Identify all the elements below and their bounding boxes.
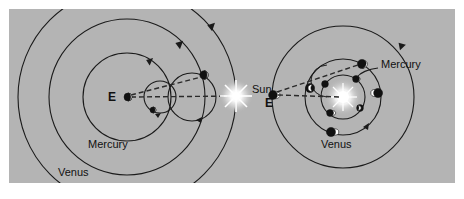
- right-planet-venus-c: [326, 127, 338, 136]
- right-earth-orbit-arrow: [395, 40, 406, 51]
- left-earth-marker: [124, 93, 132, 101]
- right-mercury-label: Mercury: [381, 58, 421, 70]
- left-mercury-epicycle-arrow: [155, 113, 161, 118]
- left-mercury-label: Mercury: [88, 138, 128, 150]
- right-planet-mercury-a: [353, 76, 361, 83]
- right-earth-label: E: [265, 96, 273, 110]
- right-planet-venus-d: [371, 88, 383, 97]
- sun-core: [232, 92, 240, 100]
- left-planet-venus: [200, 71, 208, 79]
- diagram-svg: E Mercury Venus Sun: [0, 0, 464, 199]
- sun-label: Sun: [252, 83, 272, 95]
- right-planet-venus-b: [305, 83, 314, 92]
- figure-container: E Mercury Venus Sun: [0, 0, 464, 199]
- right-heliocentric-diagram: E Mercury Venus: [265, 26, 421, 168]
- sun-group: Sun: [219, 79, 272, 113]
- left-planet-mercury: [150, 107, 156, 113]
- left-geocentric-diagram: E Mercury Venus: [18, 0, 238, 199]
- right-venus-label: Venus: [321, 138, 352, 150]
- left-venus-label: Venus: [58, 166, 89, 178]
- left-earth-label: E: [108, 90, 116, 104]
- right-planet-mercury-d: [357, 105, 364, 112]
- left-venus-epicycle-arrow: [196, 117, 202, 123]
